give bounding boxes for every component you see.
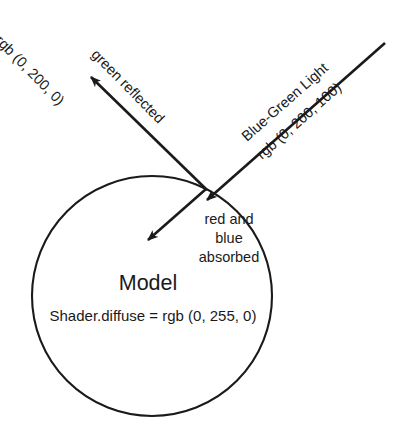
absorbed-ray [148, 189, 206, 240]
absorbed-label-line-3: absorbed [199, 249, 259, 265]
absorbed-label-line-2: blue [215, 230, 242, 246]
model-name-label: Model [119, 271, 178, 295]
diagram-canvas: rgb (0, 200, 0) green reflected Blue-Gre… [0, 0, 406, 434]
absorbed-label-line-1: red and [204, 211, 253, 227]
model-shader-label: Shader.diffuse = rgb (0, 255, 0) [50, 307, 257, 324]
reflected-ray [91, 77, 207, 190]
reflected-ray-value-label: rgb (0, 200, 0) [0, 32, 68, 108]
diffuse-shading-diagram: rgb (0, 200, 0) green reflected Blue-Gre… [0, 0, 406, 434]
